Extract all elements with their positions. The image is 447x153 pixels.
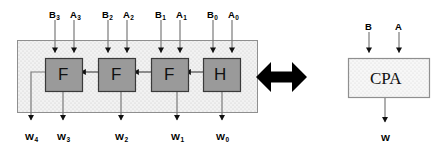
cpa-label: CPA — [370, 70, 402, 87]
input-label-a: A — [395, 22, 402, 32]
output-label-w0: W0 — [216, 132, 229, 142]
cell-h0-label: H — [214, 66, 226, 83]
input-label-b3: B3 — [49, 10, 60, 20]
input-label-b1: B1 — [155, 10, 166, 20]
input-label-b: B — [365, 22, 372, 32]
output-label-w3: W3 — [57, 132, 70, 142]
input-label-a1: A1 — [176, 10, 187, 20]
input-label-a0: A0 — [228, 10, 239, 20]
cell-f3-label: F — [58, 66, 68, 83]
input-label-a2: A2 — [123, 10, 134, 20]
cell-f1-label: F — [164, 66, 174, 83]
diagram-canvas: B3 A3 B2 A2 B1 A1 B0 A0 F F F H W4 W3 W2… — [0, 0, 447, 153]
input-label-a3: A3 — [70, 10, 81, 20]
output-label-w4: W4 — [25, 132, 38, 142]
output-label-w1: W1 — [171, 132, 184, 142]
output-label-w2: W2 — [115, 132, 128, 142]
output-label-w: W — [381, 133, 390, 143]
input-label-b0: B0 — [207, 10, 218, 20]
equivalence-double-arrow — [256, 62, 307, 92]
input-label-b2: B2 — [102, 10, 113, 20]
cell-f2-label: F — [111, 66, 121, 83]
